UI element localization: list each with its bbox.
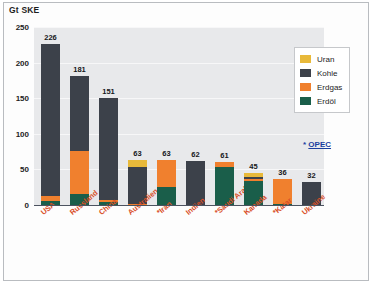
bar-value-label: 45 — [249, 162, 257, 171]
y-axis-tick-label: 150 — [16, 94, 29, 103]
bar-value-label: 62 — [191, 150, 199, 159]
chart-figure: Gt SKE 250200150100500226USA181Russland1… — [0, 0, 372, 285]
legend-swatch-icon — [300, 69, 311, 77]
opec-footnote-marker: * — [303, 140, 306, 149]
opec-footnote-text: OPEC — [308, 140, 331, 149]
bar-australien[interactable]: 63Australien — [128, 160, 147, 205]
bar-segment-kohle — [70, 76, 89, 151]
bar-russland[interactable]: 181Russland — [70, 76, 89, 205]
bar-kanada[interactable]: 45Kanada — [244, 173, 263, 205]
bar-segment-kohle — [41, 44, 60, 196]
y-axis-tick-label: 50 — [20, 165, 29, 174]
bar-segment-erdgas — [70, 151, 89, 194]
legend-swatch-icon — [300, 55, 311, 63]
y-axis-tick-label: 200 — [16, 58, 29, 67]
x-axis-line — [34, 205, 324, 207]
bar-segment-erdgas — [157, 160, 176, 187]
legend-label: Erdöl — [317, 97, 336, 106]
legend-swatch-icon — [300, 97, 311, 105]
bar-katar[interactable]: 36*Katar — [273, 179, 292, 205]
legend-swatch-icon — [300, 83, 311, 91]
legend-item-uran[interactable]: Uran — [300, 52, 342, 66]
y-axis-unit-label: Gt SKE — [9, 5, 39, 15]
bar-value-label: 61 — [220, 151, 228, 160]
opec-footnote: * OPEC — [303, 140, 331, 149]
bar-value-label: 32 — [307, 171, 315, 180]
plot-area: 250200150100500226USA181Russland151China… — [34, 27, 324, 205]
bar-indien[interactable]: 62Indien — [186, 161, 205, 205]
gridline — [34, 27, 324, 28]
bar-iran[interactable]: 63*Iran — [157, 160, 176, 205]
legend-item-erdöl[interactable]: Erdöl — [300, 94, 342, 108]
bar-value-label: 36 — [278, 168, 286, 177]
bar-ukraine[interactable]: 32Ukraine — [302, 182, 321, 205]
bar-usa[interactable]: 226USA — [41, 44, 60, 205]
bar-value-label: 226 — [44, 33, 57, 42]
bar-segment-kohle — [99, 98, 118, 201]
bar-value-label: 63 — [133, 149, 141, 158]
y-axis-tick-label: 100 — [16, 129, 29, 138]
legend-item-kohle[interactable]: Kohle — [300, 66, 342, 80]
gridline — [34, 63, 324, 64]
bar-china[interactable]: 151China — [99, 98, 118, 205]
bar-saudiarabien[interactable]: 61*Saudi Arabien — [215, 162, 234, 205]
bar-value-label: 63 — [162, 149, 170, 158]
legend-label: Kohle — [317, 69, 337, 78]
bar-value-label: 181 — [73, 65, 86, 74]
y-axis-tick-label: 0 — [25, 201, 29, 210]
chart-legend: UranKohleErdgasErdöl — [294, 47, 350, 113]
legend-label: Erdgas — [317, 83, 342, 92]
bar-segment-uran — [128, 160, 147, 167]
bar-value-label: 151 — [102, 87, 115, 96]
plot-inner: 250200150100500226USA181Russland151China… — [34, 27, 324, 205]
legend-label: Uran — [317, 55, 334, 64]
legend-item-erdgas[interactable]: Erdgas — [300, 80, 342, 94]
y-axis-tick-label: 250 — [16, 23, 29, 32]
